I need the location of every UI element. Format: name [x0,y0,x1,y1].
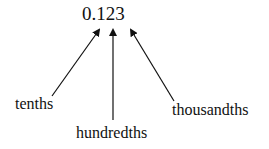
arrow-tenths [52,30,99,96]
label-hundredths: hundredths [76,125,147,141]
label-tenths: tenths [15,96,53,112]
label-thousandths: thousandths [172,102,248,118]
arrow-thousandths [131,30,174,101]
